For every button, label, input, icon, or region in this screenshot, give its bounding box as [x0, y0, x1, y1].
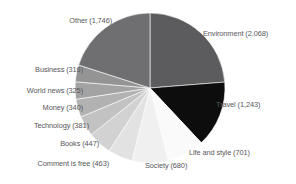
- pie-label-life-and-style: Life and style (701): [189, 149, 250, 156]
- pie-label-environment: Environment (2,068): [203, 30, 268, 37]
- pie-label-money: Money (340): [43, 104, 83, 111]
- pie-label-comment-is-free: Comment is free (463): [38, 160, 109, 167]
- pie-label-world-news: World news (325): [27, 87, 83, 94]
- pie-label-business: Business (316): [35, 66, 83, 73]
- pie-label-books: Books (447): [60, 140, 99, 147]
- pie-chart: Environment (2,068) Travel (1,243) Life …: [0, 0, 296, 184]
- pie-label-society: Society (680): [145, 162, 187, 169]
- pie-label-technology: Technology (381): [34, 122, 89, 129]
- pie-label-other: Other (1,746): [69, 17, 112, 24]
- pie-slice-environment: [150, 13, 225, 88]
- pie-label-travel: Travel (1,243): [216, 101, 260, 108]
